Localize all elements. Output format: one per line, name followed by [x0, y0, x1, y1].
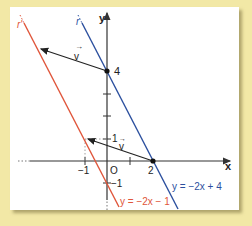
equation-r-prime: y = −2x − 1: [120, 196, 170, 207]
point-0-4: [104, 68, 109, 73]
x-axis-label: x: [225, 160, 232, 172]
vector-arrow-upper: →: [75, 42, 83, 51]
y-label-1: 1: [112, 133, 118, 144]
line-r-label: r: [76, 16, 80, 27]
y-label-minus1: −1: [111, 178, 123, 189]
line-r-prime: [24, 23, 119, 207]
y-axis-label: y: [99, 12, 106, 24]
x-label-minus1: −1: [78, 165, 90, 176]
equation-r: y = −2x + 4: [172, 181, 222, 192]
line-r: [82, 23, 178, 209]
point-2-0: [150, 158, 155, 163]
line-r-prime-label: r': [17, 19, 23, 30]
vector-v-label-upper: v: [74, 51, 79, 62]
x-label-2: 2: [148, 165, 154, 176]
y-label-4: 4: [114, 65, 120, 77]
vector-v-label-lower: v: [119, 141, 124, 152]
coordinate-graph: y x r r' v → 4 1 v → −1 −1 O 2 y = −2x +…: [0, 0, 252, 226]
origin-label: O: [110, 165, 118, 176]
vector-arrow-lower: →: [119, 135, 126, 142]
